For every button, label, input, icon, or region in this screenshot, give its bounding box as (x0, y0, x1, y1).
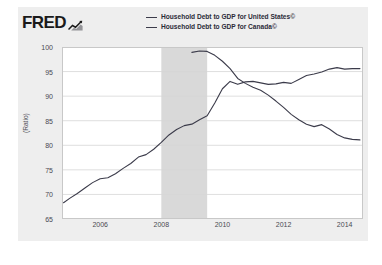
legend-swatch-canada (146, 27, 157, 28)
legend-label-united-states: Household Debt to GDP for United States© (161, 13, 295, 21)
x-tick-2010: 2010 (215, 221, 231, 228)
x-tick-2012: 2012 (276, 221, 292, 228)
legend-item-canada: Household Debt to GDP for Canada© (146, 23, 295, 31)
x-axis-tick-labels: 20062008201020122014 (62, 221, 363, 235)
x-tick-2014: 2014 (337, 221, 353, 228)
x-tick-2008: 2008 (154, 221, 170, 228)
y-tick-70: 70 (45, 191, 53, 198)
recession-shading (161, 47, 207, 219)
chart-legend: Household Debt to GDP for United States©… (146, 13, 295, 31)
legend-item-united-states: Household Debt to GDP for United States© (146, 13, 295, 21)
chart-squiggle-icon (68, 20, 85, 31)
series-line-canada (64, 68, 360, 203)
fred-wordmark: FRED (22, 14, 66, 31)
y-axis-title: (Ratio) (22, 113, 29, 133)
fred-chart-screenshot: FRED Household Debt to GDP for United St… (0, 0, 382, 265)
y-tick-65: 65 (45, 216, 53, 223)
y-tick-80: 80 (45, 142, 53, 149)
plot-area (62, 47, 363, 219)
plot-canvas (62, 47, 363, 219)
y-axis-tick-labels: 65707580859095100 (0, 47, 58, 219)
series-line-united-states (192, 51, 360, 140)
y-tick-90: 90 (45, 93, 53, 100)
fred-logo: FRED (22, 14, 85, 31)
y-tick-95: 95 (45, 68, 53, 75)
y-tick-100: 100 (41, 44, 53, 51)
y-tick-85: 85 (45, 117, 53, 124)
x-tick-2006: 2006 (92, 221, 108, 228)
legend-label-canada: Household Debt to GDP for Canada© (161, 23, 277, 31)
legend-swatch-united-states (146, 17, 157, 18)
y-tick-75: 75 (45, 166, 53, 173)
